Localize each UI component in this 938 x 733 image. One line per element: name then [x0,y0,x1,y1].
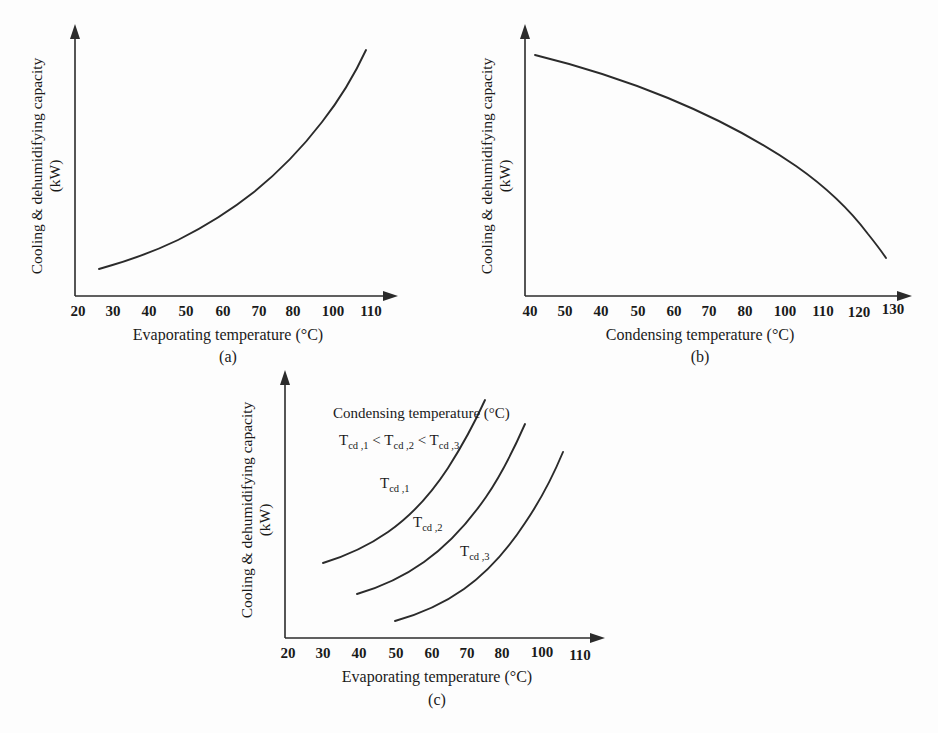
curve-label-tcd2: Tcd ,2 [413,514,443,533]
x-tick-labels-c: 20 30 40 50 60 70 80 100 110 [281,644,591,663]
y-axis-arrow-icon-a [70,24,80,39]
x-tick-label: 100 [774,303,797,319]
curve-label-tcd1-base: T [380,475,389,491]
x-axis-arrow-icon-a [383,291,398,301]
y-axis-title-line2-c: (kW) [256,504,274,537]
x-tick-label: 40 [142,303,157,319]
y-axis-title-line1-a: Cooling & dehumidifying capacity [28,57,45,274]
x-tick-label: 30 [316,645,331,661]
x-tick-label: 50 [389,645,404,661]
tcd2-base: T [384,432,393,448]
y-axis-title-line2-a: (kW) [46,160,64,193]
y-axis-a [70,24,80,296]
chart-panel-b: 40 50 40 50 60 70 80 100 110 120 130 Con… [452,14,922,364]
x-tick-label: 50 [558,303,573,319]
x-tick-label: 60 [667,303,682,319]
figure-sheet: 20 30 40 50 60 70 80 100 110 Evaporating… [0,0,938,733]
x-tick-label: 70 [460,645,475,661]
x-tick-label: 110 [812,303,834,319]
annotation-inequality-c: Tcd ,1 < Tcd ,2 < Tcd ,3 [339,432,459,451]
x-tick-label: 40 [594,303,609,319]
x-tick-labels-a: 20 30 40 50 60 70 80 100 110 [71,303,382,319]
x-tick-label: 30 [106,303,121,319]
x-tick-labels-b: 40 50 40 50 60 70 80 100 110 120 130 [523,301,905,320]
curve-label-tcd2-base: T [413,514,422,530]
x-tick-label: 60 [216,303,231,319]
x-tick-label: 110 [360,303,382,319]
y-axis-title-line1-c: Cooling & dehumidifying capacity [238,401,255,618]
x-tick-label: 130 [882,301,905,317]
y-axis-arrow-icon-b [520,24,530,39]
curve-label-tcd1: Tcd ,1 [380,475,410,494]
x-axis-title-b: Condensing temperature (°C) [606,326,795,344]
x-tick-label: 50 [631,303,646,319]
x-tick-label: 20 [281,645,296,661]
y-axis-title-line1-b: Cooling & dehumidifying capacity [478,57,495,274]
chart-svg-b: 40 50 40 50 60 70 80 100 110 120 130 Con… [452,14,922,364]
annotation-condensing-temperature-c: Condensing temperature (°C) [333,405,510,422]
x-axis-a [75,291,398,301]
x-axis-arrow-icon-b [897,291,912,301]
chart-panel-c: Condensing temperature (°C) Tcd ,1 < Tcd… [205,360,675,728]
x-tick-label: 70 [702,303,717,319]
x-axis-b [525,291,912,301]
data-curve-a [99,50,366,269]
x-tick-label: 100 [322,303,345,319]
annotation-block-c: Condensing temperature (°C) Tcd ,1 < Tcd… [333,405,510,451]
y-axis-title-c: Cooling & dehumidifying capacity (kW) [238,401,274,618]
x-tick-label: 40 [352,645,367,661]
inequality-op-2: < [414,432,430,448]
x-tick-label: 100 [531,644,554,660]
x-axis-arrow-icon-c [590,633,605,643]
data-curve-c-tcd3 [395,452,563,621]
x-tick-label: 20 [71,303,86,319]
x-axis-c [285,633,605,643]
x-tick-label: 80 [286,303,301,319]
inequality-op-1: < [369,432,385,448]
tcd1-base: T [339,432,348,448]
y-axis-title-line2-b: (kW) [496,160,514,193]
x-tick-label: 60 [425,645,440,661]
panel-caption-b: (b) [691,348,710,366]
x-tick-label: 120 [848,304,871,320]
curve-label-tcd1-subscript: cd ,1 [389,483,409,494]
tcd1-subscript: cd ,1 [348,440,368,451]
tcd3-subscript: cd ,3 [439,440,459,451]
tcd3-base: T [430,432,439,448]
x-tick-label: 80 [738,303,753,319]
panel-caption-c: (c) [428,691,446,709]
y-axis-c [280,370,290,638]
x-tick-label: 50 [179,303,194,319]
y-axis-b [520,24,530,296]
x-axis-title-c: Evaporating temperature (°C) [342,668,532,686]
x-axis-title-a: Evaporating temperature (°C) [133,326,323,344]
x-tick-label: 110 [569,647,591,663]
curve-label-tcd3-base: T [460,543,469,559]
x-tick-label: 70 [252,303,267,319]
chart-panel-a: 20 30 40 50 60 70 80 100 110 Evaporating… [18,14,438,364]
curve-label-tcd3: Tcd ,3 [460,543,490,562]
data-curve-c-tcd1 [323,400,485,563]
chart-svg-a: 20 30 40 50 60 70 80 100 110 Evaporating… [18,14,438,364]
tcd2-subscript: cd ,2 [393,440,413,451]
y-axis-arrow-icon-c [280,370,290,385]
x-tick-label: 40 [523,303,538,319]
data-curve-b [535,55,886,258]
y-axis-title-a: Cooling & dehumidifying capacity (kW) [28,57,64,274]
y-axis-title-b: Cooling & dehumidifying capacity (kW) [478,57,514,274]
chart-svg-c: Condensing temperature (°C) Tcd ,1 < Tcd… [205,360,675,728]
curve-label-tcd3-subscript: cd ,3 [469,551,489,562]
x-tick-label: 80 [495,645,510,661]
curve-label-tcd2-subscript: cd ,2 [422,522,442,533]
